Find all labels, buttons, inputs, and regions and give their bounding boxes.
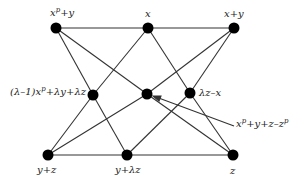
label-node-G: y+z [37, 165, 56, 175]
label-node-H: y+λz [115, 165, 141, 175]
label-node-F: λz–x [199, 88, 221, 98]
annotation-arrow-line [156, 97, 234, 126]
edge-F-I [190, 93, 233, 155]
edge-D-H [93, 95, 127, 155]
node-H [122, 150, 133, 161]
node-I [228, 150, 239, 161]
edge-B-D [93, 28, 148, 95]
edge-E-I [147, 94, 233, 155]
node-D [88, 90, 99, 101]
edge-A-D [56, 28, 93, 95]
edge-C-E [147, 28, 234, 94]
node-F [185, 88, 196, 99]
node-B [143, 23, 154, 34]
node-G [43, 150, 54, 161]
node-E [142, 89, 153, 100]
edge-B-F [148, 28, 190, 93]
label-node-E: xp+y+z–zp [236, 118, 289, 129]
node-A [51, 23, 62, 34]
label-node-C: x+y [224, 9, 244, 19]
label-node-B: x [145, 9, 151, 19]
edge-D-G [48, 95, 93, 155]
node-C [229, 23, 240, 34]
label-node-D: (λ–1)xp+λy+λz [10, 86, 86, 97]
edge-C-F [190, 28, 234, 93]
label-node-A: xp+y [50, 7, 74, 18]
label-node-I: z [230, 166, 235, 176]
